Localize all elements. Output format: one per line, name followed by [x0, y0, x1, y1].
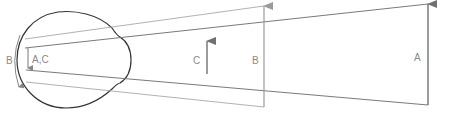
visual-angle-diagram: B A,C C B A [0, 0, 453, 120]
label-object-a: A [414, 52, 421, 63]
ray-a-bottom [26, 70, 428, 105]
label-object-c: C [193, 55, 200, 66]
ray-b-top [25, 6, 264, 39]
label-object-b: B [252, 55, 259, 66]
ray-b-bottom [26, 82, 264, 107]
label-retina-ac: A,C [32, 54, 49, 65]
label-retina-b: B [6, 55, 13, 66]
ray-a-top [25, 4, 428, 48]
